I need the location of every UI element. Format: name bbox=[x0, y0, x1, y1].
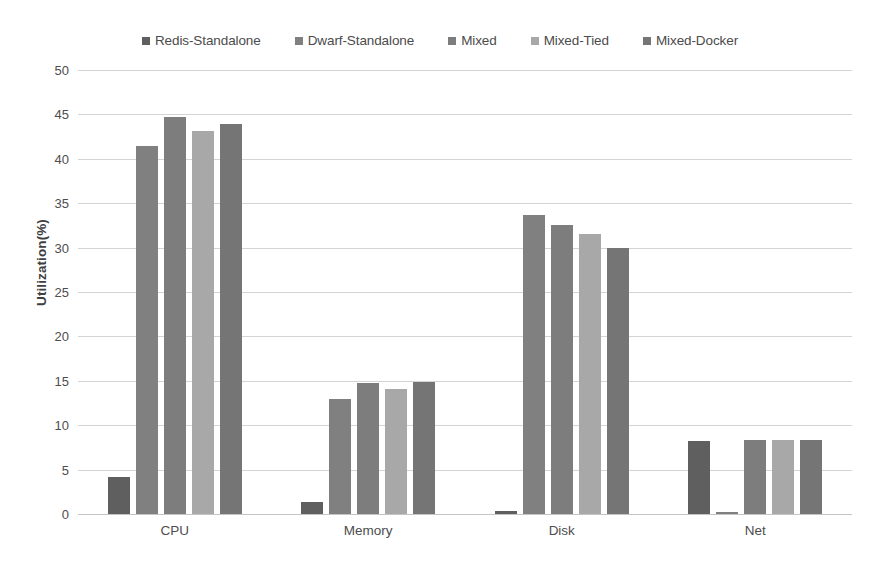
bar bbox=[772, 440, 794, 514]
bar bbox=[329, 399, 351, 514]
y-axis-tick-label: 30 bbox=[55, 240, 69, 255]
y-axis-title: Utilization(%) bbox=[34, 193, 49, 333]
bar bbox=[744, 440, 766, 514]
bar bbox=[688, 441, 710, 514]
bar-group: Disk bbox=[465, 70, 659, 514]
bar bbox=[607, 248, 629, 514]
y-axis-tick-label: 10 bbox=[55, 418, 69, 433]
bar-group: CPU bbox=[78, 70, 272, 514]
bar bbox=[164, 117, 186, 514]
bar bbox=[523, 215, 545, 514]
bar bbox=[551, 225, 573, 514]
bar bbox=[136, 146, 158, 514]
plot-area: 05101520253035404550 CPUMemoryDiskNet bbox=[78, 70, 852, 514]
legend-label: Mixed-Tied bbox=[544, 33, 609, 48]
y-axis-tick-label: 0 bbox=[62, 507, 69, 522]
legend-swatch-icon bbox=[142, 37, 150, 45]
bar-group: Net bbox=[659, 70, 853, 514]
y-axis-tick-label: 50 bbox=[55, 63, 69, 78]
bar bbox=[220, 124, 242, 514]
bar bbox=[108, 477, 130, 514]
legend-item: Redis-Standalone bbox=[142, 33, 261, 48]
bar bbox=[413, 382, 435, 514]
legend-label: Dwarf-Standalone bbox=[308, 33, 414, 48]
legend-swatch-icon bbox=[643, 37, 651, 45]
legend-swatch-icon bbox=[295, 37, 303, 45]
bar bbox=[385, 389, 407, 514]
y-axis-tick-label: 15 bbox=[55, 373, 69, 388]
bar bbox=[716, 512, 738, 514]
y-axis-tick-label: 35 bbox=[55, 196, 69, 211]
bar bbox=[579, 234, 601, 514]
y-axis-tick-label: 25 bbox=[55, 285, 69, 300]
chart-legend: Redis-StandaloneDwarf-StandaloneMixedMix… bbox=[0, 33, 880, 48]
legend-item: Mixed-Tied bbox=[531, 33, 609, 48]
x-axis-category-label: Memory bbox=[272, 523, 466, 538]
legend-item: Dwarf-Standalone bbox=[295, 33, 414, 48]
bar bbox=[495, 511, 517, 514]
bar bbox=[800, 440, 822, 514]
x-axis-category-label: Net bbox=[659, 523, 853, 538]
bar-groups: CPUMemoryDiskNet bbox=[78, 70, 852, 514]
gridline bbox=[78, 514, 852, 515]
legend-item: Mixed-Docker bbox=[643, 33, 738, 48]
legend-swatch-icon bbox=[531, 37, 539, 45]
y-axis-tick-label: 5 bbox=[62, 462, 69, 477]
bar-chart: Redis-StandaloneDwarf-StandaloneMixedMix… bbox=[0, 0, 880, 579]
x-axis-category-label: Disk bbox=[465, 523, 659, 538]
legend-label: Mixed bbox=[461, 33, 497, 48]
bar bbox=[301, 502, 323, 514]
y-axis-tick-label: 20 bbox=[55, 329, 69, 344]
legend-label: Redis-Standalone bbox=[155, 33, 261, 48]
y-axis-tick-label: 40 bbox=[55, 151, 69, 166]
legend-swatch-icon bbox=[448, 37, 456, 45]
bar bbox=[357, 383, 379, 514]
legend-label: Mixed-Docker bbox=[656, 33, 738, 48]
x-axis-category-label: CPU bbox=[78, 523, 272, 538]
bar-group: Memory bbox=[272, 70, 466, 514]
y-axis-tick-label: 45 bbox=[55, 107, 69, 122]
bar bbox=[192, 131, 214, 514]
legend-item: Mixed bbox=[448, 33, 497, 48]
